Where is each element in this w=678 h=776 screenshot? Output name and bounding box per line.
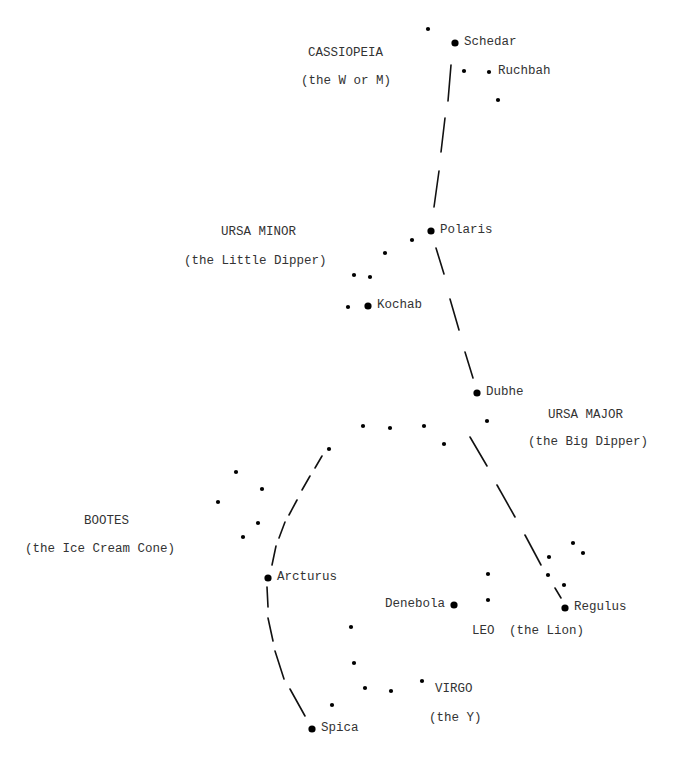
arc-dash (279, 522, 285, 538)
star-dot (581, 551, 585, 555)
bright-star-dot (450, 601, 457, 608)
star-label: Regulus (574, 601, 627, 614)
arc-dash (315, 456, 322, 468)
star-dot (486, 598, 490, 602)
star-dot (571, 541, 575, 545)
star-dot (368, 275, 372, 279)
constellation-nickname: (the Y) (429, 712, 482, 725)
bright-star-dot (451, 39, 458, 46)
pointer-dash (450, 299, 459, 330)
pointer-dash (497, 485, 515, 517)
star-dot (485, 419, 489, 423)
star-dot (388, 426, 392, 430)
star-dot (410, 238, 414, 242)
star-dot (352, 661, 356, 665)
star-dot (547, 555, 551, 559)
star-dot (327, 447, 331, 451)
arc-dash (289, 500, 297, 515)
arc-dash (267, 587, 268, 607)
bright-star-dot (364, 302, 371, 309)
star-label: Arcturus (277, 571, 337, 584)
constellation-name: URSA MAJOR (548, 409, 623, 422)
star-dot (346, 305, 350, 309)
arc-dash (268, 618, 273, 641)
constellation-name: BOOTES (84, 515, 129, 528)
bright-star-dot (427, 227, 434, 234)
constellation-name: CASSIOPEIA (308, 47, 383, 60)
star-dot (330, 703, 334, 707)
star-dot (349, 625, 353, 629)
star-label: Ruchbah (498, 65, 551, 78)
pointer-dash (555, 588, 561, 598)
star-dot (422, 424, 426, 428)
star-dot (363, 686, 367, 690)
constellation-nickname: (the W or M) (301, 75, 391, 88)
bright-star-dot (308, 725, 315, 732)
star-dot (216, 500, 220, 504)
pointer-dash (448, 65, 451, 101)
pointer-dash (470, 437, 487, 466)
star-dot (260, 487, 264, 491)
star-dot (361, 424, 365, 428)
star-dot (486, 572, 490, 576)
arc-dash (290, 689, 305, 716)
star-dot (426, 27, 430, 31)
star-dot (241, 535, 245, 539)
pointer-dash (436, 248, 444, 274)
star-dot (496, 98, 500, 102)
star-dot (420, 679, 424, 683)
star-dot (352, 273, 356, 277)
star-dot (462, 69, 466, 73)
star-dot (442, 442, 446, 446)
star-dot (546, 573, 550, 577)
constellation-name: URSA MINOR (221, 226, 296, 239)
star-label: Denebola (385, 598, 445, 611)
star-map (0, 0, 678, 776)
constellation-name: LEO (472, 625, 495, 638)
arc-dash (275, 651, 284, 679)
star-dot (487, 70, 491, 74)
arc-dash (302, 476, 310, 490)
star-dot (389, 689, 393, 693)
pointer-dash (525, 535, 541, 565)
star-label: Schedar (464, 36, 517, 49)
bright-star-dot (473, 389, 480, 396)
constellation-nickname: (the Lion) (509, 625, 584, 638)
star-dot (256, 521, 260, 525)
star-dot (234, 470, 238, 474)
star-label: Polaris (440, 224, 493, 237)
pointer-dash (465, 352, 473, 378)
constellation-name: VIRGO (435, 683, 473, 696)
constellation-nickname: (the Ice Cream Cone) (25, 543, 175, 556)
pointer-dash (441, 118, 445, 152)
star-label: Dubhe (486, 386, 524, 399)
constellation-nickname: (the Big Dipper) (528, 436, 648, 449)
bright-star-dot (561, 604, 568, 611)
star-label: Kochab (377, 299, 422, 312)
pointer-dash (434, 171, 439, 207)
bright-star-dot (264, 574, 271, 581)
constellation-nickname: (the Little Dipper) (184, 255, 327, 268)
star-label: Spica (321, 722, 359, 735)
arc-dash (272, 546, 276, 565)
star-dot (383, 251, 387, 255)
star-dot (562, 583, 566, 587)
